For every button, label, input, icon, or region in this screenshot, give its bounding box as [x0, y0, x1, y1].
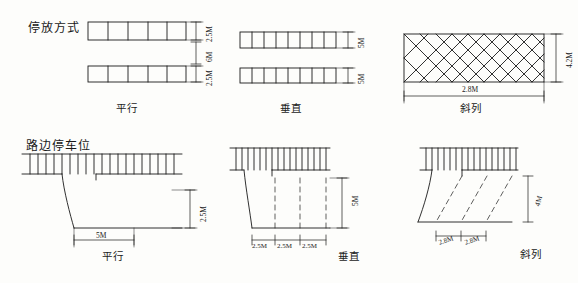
dim-r1b-bottom: 5M	[358, 74, 366, 84]
caption-row2-angled: 斜列	[520, 250, 542, 261]
dim-r2b-b2: 2.5M	[277, 243, 292, 250]
caption-row2-parallel: 平行	[102, 252, 124, 263]
dim-r1b-top: 5M	[358, 38, 366, 48]
dim-r1c-bottom: 2.8M	[462, 86, 478, 94]
dim-r2a-right: 2.5M	[200, 206, 208, 222]
caption-row1-parallel: 平行	[116, 104, 138, 115]
dim-r2b-b3: 2.5M	[302, 243, 317, 250]
dim-r1a-top: 2.5M	[206, 26, 214, 42]
dim-r1a-bottom: 2.5M	[206, 70, 214, 86]
caption-row2-perpendicular: 垂直	[338, 252, 360, 263]
caption-row1-angled: 斜列	[460, 104, 482, 115]
dim-r1c-side: 4.2M	[566, 52, 574, 68]
parking-layout-sketch-sheet: 停放方式 路边停车位 平行 垂直 斜列 平行 垂直 斜列 2.5M 6M 2.5…	[0, 0, 578, 283]
dim-r2b-b1: 2.5M	[252, 243, 267, 250]
parking-mode-title: 停放方式	[28, 22, 80, 34]
caption-row1-perpendicular: 垂直	[280, 104, 302, 115]
roadside-parking-title: 路边停车位	[26, 140, 91, 152]
dim-r1a-mid: 6M	[206, 52, 214, 62]
dim-r2a-bottom: 5M	[96, 232, 106, 240]
dim-r2b-right: 5M	[352, 196, 360, 206]
